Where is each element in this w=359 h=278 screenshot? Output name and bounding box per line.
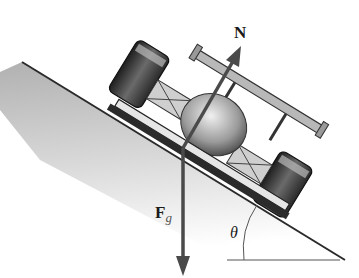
normal-force-label: N	[234, 23, 247, 42]
gravity-force-label-subscript: g	[165, 210, 172, 225]
incline-free-body-diagram: N Fg θ	[0, 0, 359, 278]
angle-label: θ	[230, 224, 238, 241]
gravity-force-label-main: F	[155, 203, 165, 222]
